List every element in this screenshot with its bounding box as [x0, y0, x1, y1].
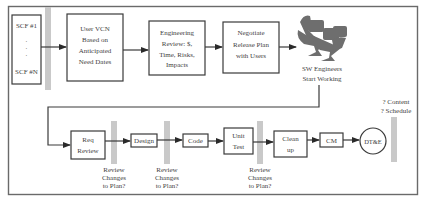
eng-review-line: Engineering [160, 29, 195, 37]
unit-test-line: Test [233, 143, 245, 151]
gate-bar [111, 121, 117, 164]
gate-bar [391, 117, 397, 162]
gate-label: Review [156, 166, 178, 174]
user-vcn-line: Based on [82, 36, 108, 44]
unit-test-line: Unit [232, 132, 245, 140]
sw-engineers-line: SW Engineers [302, 65, 342, 73]
cm-label: CM [326, 137, 338, 145]
code-label: Code [188, 137, 203, 145]
gate-label: Changes [248, 174, 272, 182]
req-review-line: Req [82, 136, 94, 144]
req-review-line: Review [77, 147, 99, 155]
workstations-icon [298, 16, 347, 61]
gate-bar [164, 121, 170, 164]
gate-label: Changes [102, 174, 126, 182]
clean-up-line: up [287, 146, 295, 154]
process-diagram: SCF #1 · · · SCF #N User VCN Based on An… [0, 0, 423, 201]
negotiate-line: Negotiate [237, 29, 264, 37]
negotiate-line: with Users [236, 52, 266, 60]
gate-label: Review [249, 166, 271, 174]
eng-review-line: Review: $, [162, 40, 193, 48]
user-vcn-line: Need Dates [79, 58, 112, 66]
user-vcn-line: User VCN [80, 25, 110, 33]
gate-label: to Plan? [156, 182, 179, 190]
gate-label: to Plan? [103, 182, 126, 190]
gate-label: Changes [155, 174, 179, 182]
negotiate-line: Release Plan [233, 41, 269, 49]
eng-review-line: Time, Risks, [159, 51, 195, 59]
dtae-label: DT&E [364, 138, 382, 145]
clean-up-line: Clean [282, 135, 299, 143]
gate-bar [45, 7, 51, 90]
scf-first-label: SCF #1 [16, 22, 38, 30]
final-gate-label: ? Content [382, 98, 409, 106]
gate-label: Review [103, 166, 125, 174]
final-gate-label: ? Schedule [381, 107, 412, 115]
gate-label: to Plan? [249, 182, 272, 190]
sw-engineers-line: Start Working [302, 75, 342, 83]
user-vcn-line: Anticipated [79, 47, 112, 55]
scf-last-label: SCF #N [15, 68, 38, 76]
scf-dot: · [25, 52, 27, 60]
eng-review-line: Impacts [166, 61, 188, 69]
design-label: Design [134, 137, 154, 145]
